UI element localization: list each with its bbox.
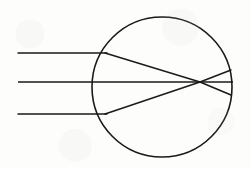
optics-diagram-svg [0, 0, 251, 169]
lower-exit-ray [200, 82, 231, 95]
ray-diagram-canvas [0, 0, 251, 169]
upper-exit-ray [200, 70, 231, 82]
lower-refracted-ray [105, 82, 200, 114]
upper-refracted-ray [105, 53, 200, 82]
